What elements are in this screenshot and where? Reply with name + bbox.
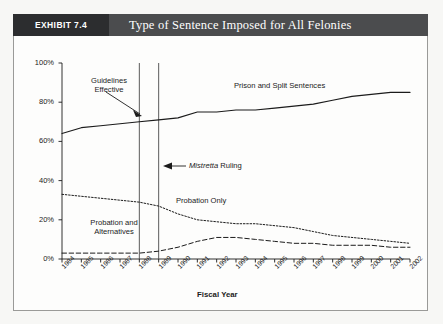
exhibit-figure: EXHIBIT 7.4 Type of Sentence Imposed for… <box>0 0 443 324</box>
y-tick-label: 100% <box>28 58 54 67</box>
series-label-probation-only: Probation Only <box>176 196 226 205</box>
y-tick-label: 60% <box>28 136 54 145</box>
exhibit-title: Type of Sentence Imposed for All Felonie… <box>129 18 352 33</box>
y-tick-label: 40% <box>28 176 54 185</box>
annotation-mistretta-ruling: Mistretta Ruling <box>189 161 242 170</box>
mistretta-case-name: Mistretta <box>189 161 218 170</box>
exhibit-header-band: EXHIBIT 7.4 Type of Sentence Imposed for… <box>13 14 428 36</box>
probation-alternatives-line1: Probation and <box>69 218 159 227</box>
series-label-probation-and-alternatives: Probation and Alternatives <box>69 218 159 236</box>
guidelines-effective-line2: Effective <box>74 85 144 94</box>
y-tick-label: 80% <box>28 97 54 106</box>
probation-alternatives-line2: Alternatives <box>69 227 159 236</box>
exhibit-number-box: EXHIBIT 7.4 <box>13 14 109 36</box>
y-tick-label: 20% <box>28 215 54 224</box>
series-label-prison-and-split-sentences: Prison and Split Sentences <box>234 81 325 90</box>
mistretta-ruling-word: Ruling <box>218 161 242 170</box>
x-axis-title: Fiscal Year <box>197 290 238 299</box>
y-tick-label: 0% <box>28 254 54 263</box>
annotation-guidelines-effective: Guidelines Effective <box>74 76 144 94</box>
exhibit-number-label: EXHIBIT 7.4 <box>35 20 87 30</box>
guidelines-effective-line1: Guidelines <box>74 76 144 85</box>
